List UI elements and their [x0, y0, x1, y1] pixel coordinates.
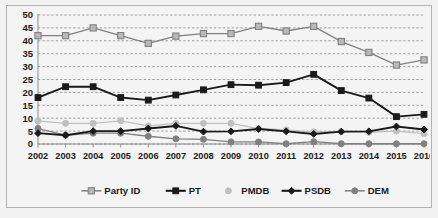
data-point-dem-2012 — [311, 139, 317, 145]
y-tick-label-45: 45 — [22, 22, 33, 33]
y-tick-label-40: 40 — [22, 35, 33, 46]
data-point-dem-2013 — [338, 141, 344, 147]
legend-marker-pmdb — [225, 188, 231, 194]
x-tick-label-2011: 2011 — [276, 151, 296, 161]
data-point-pt-2006 — [145, 97, 151, 103]
data-point-party-id-2015 — [393, 62, 399, 68]
legend-label-pmdb: PMDB — [241, 185, 269, 196]
data-point-party-id-2002 — [35, 33, 41, 39]
x-tick-label-2013: 2013 — [331, 151, 351, 161]
data-point-dem-2016 — [421, 141, 427, 147]
x-tick-label-2014: 2014 — [359, 151, 380, 161]
data-point-party-id-2007 — [173, 33, 179, 39]
series-pt — [35, 71, 427, 119]
data-point-dem-2009 — [228, 139, 234, 145]
x-tick-label-2012: 2012 — [303, 151, 323, 161]
data-point-dem-2008 — [200, 136, 206, 142]
data-point-party-id-2005 — [118, 33, 124, 39]
legend-label-psdb: PSDB — [305, 185, 332, 196]
data-point-party-id-2012 — [311, 23, 317, 29]
x-axis-tick-labels: 2002200320042005200620072008200920102011… — [28, 151, 430, 161]
data-point-pmdb-2003 — [63, 120, 69, 126]
data-point-pmdb-2009 — [228, 120, 234, 126]
data-point-party-id-2003 — [62, 33, 68, 39]
data-point-pmdb-2008 — [200, 120, 206, 126]
x-tick-label-2004: 2004 — [83, 151, 104, 161]
data-point-pt-2004 — [90, 84, 96, 90]
y-tick-label-35: 35 — [22, 48, 33, 59]
data-point-party-id-2006 — [145, 40, 151, 46]
data-point-party-id-2016 — [421, 57, 427, 63]
y-axis-tick-labels: 05101520253035404550 — [22, 9, 33, 149]
data-point-dem-2014 — [366, 141, 372, 147]
legend-marker-pt — [173, 188, 179, 194]
legend-label-pt: PT — [189, 185, 201, 196]
chart-frame: 05101520253035404550 2002200320042005200… — [0, 0, 438, 218]
data-point-pmdb-2004 — [90, 120, 96, 126]
data-point-party-id-2010 — [255, 23, 261, 29]
data-point-pt-2014 — [366, 95, 372, 101]
data-point-dem-2015 — [393, 141, 399, 147]
data-point-dem-2011 — [283, 141, 289, 147]
data-point-party-id-2008 — [200, 30, 206, 36]
data-point-party-id-2013 — [338, 38, 344, 44]
y-tick-label-5: 5 — [28, 126, 34, 137]
data-point-pt-2008 — [201, 87, 207, 93]
data-point-psdb-2009 — [228, 128, 235, 135]
x-tick-label-2015: 2015 — [386, 151, 406, 161]
legend-item-psdb[interactable]: PSDB — [282, 185, 332, 196]
data-point-psdb-2008 — [200, 128, 207, 135]
legend-item-dem[interactable]: DEM — [345, 185, 389, 196]
x-tick-label-2010: 2010 — [248, 151, 268, 161]
legend-marker-party-id — [88, 188, 94, 194]
y-tick-label-10: 10 — [22, 113, 33, 124]
data-point-pt-2002 — [35, 95, 41, 101]
data-point-party-id-2009 — [228, 30, 234, 36]
x-tick-label-2002: 2002 — [28, 151, 48, 161]
data-point-party-id-2011 — [283, 28, 289, 34]
legend-item-pmdb[interactable]: PMDB — [225, 185, 269, 196]
data-series-group — [35, 23, 428, 146]
data-point-pt-2013 — [338, 88, 344, 94]
data-point-pmdb-2002 — [35, 118, 41, 124]
y-tick-label-0: 0 — [28, 138, 33, 149]
line-chart: 05101520253035404550 2002200320042005200… — [8, 7, 430, 206]
legend-label-party-id: Party ID — [104, 185, 140, 196]
data-point-pt-2016 — [421, 111, 427, 117]
x-tick-label-2016: 2016 — [414, 151, 430, 161]
series-party-id — [35, 23, 427, 68]
data-point-pt-2005 — [118, 95, 124, 101]
y-tick-label-50: 50 — [22, 9, 33, 20]
data-point-pt-2003 — [63, 84, 69, 90]
data-point-pt-2010 — [256, 82, 262, 88]
data-point-pt-2011 — [283, 80, 289, 86]
x-tick-label-2008: 2008 — [193, 151, 213, 161]
x-tick-label-2006: 2006 — [138, 151, 158, 161]
chart-legend: Party IDPTPMDBPSDBDEM — [81, 185, 389, 196]
data-point-dem-2006 — [145, 133, 151, 139]
data-point-pt-2009 — [228, 82, 234, 88]
data-point-dem-2007 — [173, 136, 179, 142]
chart-canvas: 05101520253035404550 2002200320042005200… — [8, 7, 430, 206]
x-tick-label-2007: 2007 — [166, 151, 186, 161]
legend-item-pt[interactable]: PT — [166, 185, 201, 196]
data-point-party-id-2014 — [366, 49, 372, 55]
legend-item-party-id[interactable]: Party ID — [81, 185, 140, 196]
legend-label-dem: DEM — [368, 185, 389, 196]
x-tick-label-2009: 2009 — [221, 151, 241, 161]
y-tick-label-30: 30 — [22, 61, 33, 72]
data-point-pmdb-2005 — [118, 118, 124, 124]
legend-marker-dem — [352, 188, 358, 194]
data-point-dem-2010 — [256, 139, 262, 145]
data-point-pt-2015 — [394, 114, 400, 120]
legend-marker-psdb — [288, 187, 295, 194]
data-point-pt-2012 — [311, 71, 317, 77]
y-tick-label-15: 15 — [22, 100, 33, 111]
x-tick-label-2003: 2003 — [55, 151, 75, 161]
data-point-pt-2007 — [173, 92, 179, 98]
y-tick-label-25: 25 — [22, 74, 33, 85]
x-tick-label-2005: 2005 — [110, 151, 130, 161]
y-tick-label-20: 20 — [22, 87, 33, 98]
data-point-party-id-2004 — [90, 25, 96, 31]
